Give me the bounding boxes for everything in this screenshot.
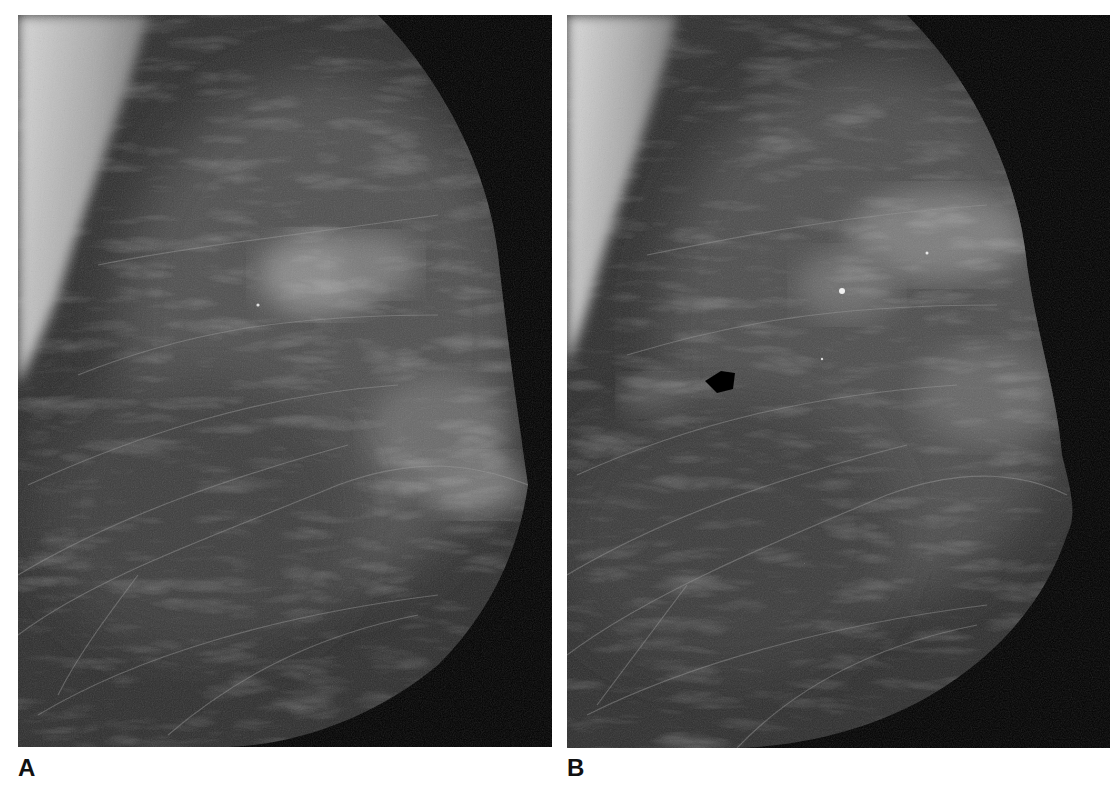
mammogram-image-a xyxy=(18,15,552,747)
panel-label-a: A xyxy=(18,756,35,780)
panel-label-b: B xyxy=(567,756,584,780)
calcification-marker xyxy=(839,288,845,294)
mammogram-panel-a xyxy=(18,15,552,747)
mammogram-panel-b xyxy=(567,15,1110,748)
mammogram-image-b xyxy=(567,15,1110,748)
